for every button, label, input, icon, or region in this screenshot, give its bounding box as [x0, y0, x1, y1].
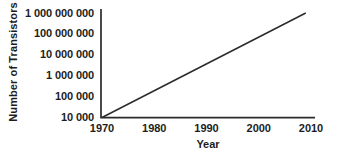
x-tick-label: 2010: [299, 123, 323, 134]
x-axis-title: Year: [196, 139, 219, 150]
x-tick-label: 1970: [90, 123, 114, 134]
x-tick-label: 1980: [142, 123, 166, 134]
transistor-growth-chart: Number of Transistors 10 000100 0001 000…: [0, 0, 342, 157]
data-line: [102, 13, 306, 118]
x-tick-label: 2000: [247, 123, 271, 134]
x-axis-tick-labels: 19701980199020002010: [0, 123, 342, 135]
x-tick-label: 1990: [194, 123, 218, 134]
